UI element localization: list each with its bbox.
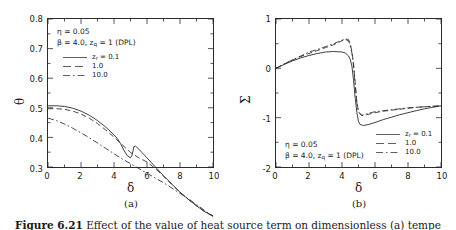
panel-b: Σ 1 0 -1 -2 0 2 4 6 8 10 δ [228, 0, 456, 200]
panel-b-legend-item-2: 10.0 [376, 148, 432, 157]
panel-a-xtick-1: 2 [70, 171, 90, 181]
panel-a-legend-key-dashdot [63, 75, 87, 76]
figure-caption-number: Figure 6.21 [15, 219, 83, 230]
panel-a-annotation: η = 0.05 β = 4.0, zq = 1 (DPL) [57, 27, 136, 49]
panel-a-ytick-4: 0.4 [17, 134, 43, 144]
panel-a-legend: zr = 0.1 1.0 10.0 [63, 53, 119, 80]
panel-b-xtick-2: 4 [332, 171, 352, 181]
panel-b-ytick-2: -1 [245, 114, 271, 124]
panel-a-xtick-0: 0 [37, 171, 57, 181]
panel-b-legend-key-dashdot [376, 152, 400, 153]
panel-a-ytick-3: 0.5 [17, 104, 43, 114]
panel-a-xtick-5: 10 [204, 171, 224, 181]
panel-b-annotation-eta: η = 0.05 [285, 140, 364, 151]
panel-a-legend-key-dashed [63, 66, 87, 67]
panel-b-legend-label-0: zr = 0.1 [405, 131, 432, 138]
figure-caption: Figure 6.21 Effect of the value of heat … [0, 219, 456, 230]
panel-b-annotation: η = 0.05 β = 4.0, zq = 1 (DPL) [285, 140, 364, 162]
panel-a-annotation-beta: β = 4.0, zq = 1 (DPL) [57, 38, 136, 49]
panel-a-legend-key-solid [63, 57, 87, 58]
panel-a-xtick-4: 8 [170, 171, 190, 181]
panel-b-legend-key-solid [376, 134, 400, 135]
panel-a-legend-item-2: 10.0 [63, 71, 119, 80]
panel-a-x-axis-label: δ [127, 182, 134, 194]
panel-b-legend-key-dashed [376, 143, 400, 144]
panel-b-xtick-1: 2 [298, 171, 318, 181]
panel-a-ytick-0: 0.8 [17, 14, 43, 24]
panel-b-series-zr10 [276, 39, 441, 115]
panel-a-ytick-1: 0.7 [17, 44, 43, 54]
panel-a-legend-label-1: 1.0 [92, 63, 103, 70]
panel-b-y-axis-label: Σ [240, 96, 252, 104]
panel-b-xtick-5: 10 [432, 171, 452, 181]
panel-a-annotation-eta: η = 0.05 [57, 27, 136, 38]
figure-container: θ 0.8 0.7 0.6 0.5 0.4 0.3 0 2 4 6 8 10 δ [0, 0, 456, 230]
panel-b-sublabel: (b) [339, 198, 379, 209]
panel-b-xtick-4: 8 [398, 171, 418, 181]
panel-a-legend-label-0: zr = 0.1 [92, 54, 119, 61]
panel-a-legend-label-2: 10.0 [92, 72, 108, 79]
panel-a-xtick-2: 4 [104, 171, 124, 181]
panel-b-series-zr1 [276, 39, 441, 116]
panel-b-xtick-0: 0 [265, 171, 285, 181]
panel-a-xtick-3: 6 [137, 171, 157, 181]
panel-b-legend-item-0: zr = 0.1 [376, 130, 432, 139]
panel-a-legend-item-1: 1.0 [63, 62, 119, 71]
panel-a: θ 0.8 0.7 0.6 0.5 0.4 0.3 0 2 4 6 8 10 δ [0, 0, 228, 200]
panel-a-legend-item-0: zr = 0.1 [63, 53, 119, 62]
panel-b-xtick-3: 6 [365, 171, 385, 181]
panel-b-ytick-0: 1 [245, 14, 271, 24]
panel-a-sublabel: (a) [111, 198, 151, 209]
panel-b-legend-label-1: 1.0 [405, 140, 416, 147]
panel-b-legend-item-1: 1.0 [376, 139, 432, 148]
panel-a-ytick-2: 0.6 [17, 74, 43, 84]
panel-b-legend-label-2: 10.0 [405, 149, 421, 156]
panel-b-series-zr01 [276, 52, 441, 126]
panel-b-legend: zr = 0.1 1.0 10.0 [376, 130, 432, 157]
panel-b-ytick-1: 0 [245, 64, 271, 74]
figure-caption-text: Effect of the value of heat source term … [86, 219, 441, 230]
panel-b-x-axis-label: δ [355, 182, 362, 194]
panel-b-annotation-beta: β = 4.0, zq = 1 (DPL) [285, 151, 364, 162]
